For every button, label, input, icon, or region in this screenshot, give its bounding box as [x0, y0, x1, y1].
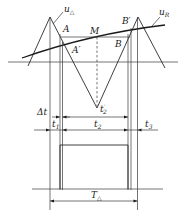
delta-t-arrowhead-left: [56, 116, 60, 119]
output-pulse: [60, 145, 128, 189]
u-r-leader: [152, 17, 160, 26]
u-r-label: uR: [159, 7, 170, 18]
point-B-label: B: [114, 39, 122, 49]
t2-prime-label: t′2: [100, 103, 107, 115]
point-A-label: A: [62, 24, 70, 34]
u-tri-leader: [53, 12, 63, 24]
pwm-diagram: u△ uR A A′ M B B′ t′2 Δt t1 t2 t3 T△: [0, 0, 183, 217]
point-B-prime-label: B′: [121, 16, 131, 26]
delta-t-label: Δt: [36, 107, 47, 117]
t2-label: t2: [94, 119, 102, 130]
point-A-prime-label: A′: [71, 45, 81, 55]
t3-arrowhead-in-right: [138, 129, 142, 132]
point-M-label: M: [89, 26, 100, 36]
t2-arrowhead-right: [124, 129, 128, 132]
t3-label: t3: [145, 119, 153, 130]
t1-label: t1: [52, 119, 59, 130]
period-label: T△: [91, 190, 102, 201]
u-tri-label: u△: [64, 4, 75, 15]
period-arrowhead-right: [134, 200, 138, 203]
t1-arrowhead-in-left: [46, 129, 50, 132]
t2-prime-arrowhead-right: [124, 116, 128, 119]
period-arrowhead-left: [50, 200, 54, 203]
t2-arrowhead-left: [63, 129, 67, 132]
